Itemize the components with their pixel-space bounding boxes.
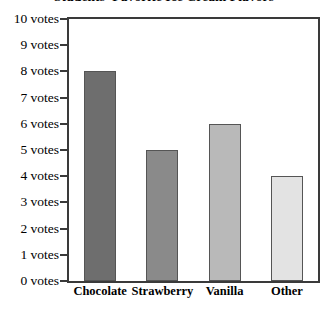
- x-tick-label-chocolate: Chocolate: [73, 285, 126, 299]
- y-tick-label: 3 votes: [20, 196, 59, 210]
- x-tick-label-vanilla: Vanilla: [206, 285, 244, 299]
- bar-strawberry: [146, 150, 178, 281]
- y-tick-label: 9 votes: [20, 38, 59, 52]
- x-tick-label-strawberry: Strawberry: [131, 285, 193, 299]
- bars-group: [67, 17, 320, 283]
- y-tick-label: 7 votes: [20, 91, 59, 105]
- y-tick-label: 6 votes: [20, 117, 59, 131]
- y-tick-label: 10 votes: [14, 12, 59, 26]
- bar-chocolate: [84, 71, 116, 281]
- y-tick-label: 0 votes: [20, 274, 59, 288]
- x-axis: ChocolateStrawberryVanillaOther: [67, 285, 320, 307]
- bar-vanilla: [209, 124, 241, 281]
- y-tick-label: 5 votes: [20, 143, 59, 157]
- y-tick-label: 4 votes: [20, 169, 59, 183]
- y-tick-label: 1 votes: [20, 248, 59, 262]
- y-tick-label: 8 votes: [20, 65, 59, 79]
- chart-title: Students' Favorite Ice Cream Flavors: [0, 0, 328, 5]
- y-axis: 0 votes1 votes2 votes3 votes4 votes5 vot…: [0, 17, 67, 283]
- x-tick-label-other: Other: [271, 285, 303, 299]
- bar-chart: Students' Favorite Ice Cream Flavors 0 v…: [0, 0, 328, 313]
- y-tick-label: 2 votes: [20, 222, 59, 236]
- bar-other: [271, 176, 303, 281]
